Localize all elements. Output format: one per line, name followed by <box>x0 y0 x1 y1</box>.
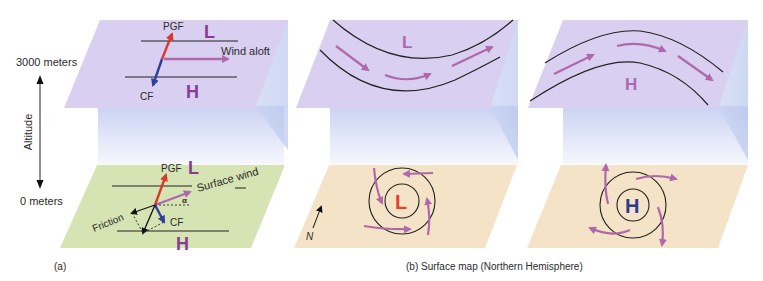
axis-title: Altitude <box>22 114 34 151</box>
panel-b-caption: (b) Surface map (Northern Hemisphere) <box>406 261 583 272</box>
low-label-aloft: L <box>204 22 215 42</box>
low-label-surface: L <box>188 158 199 178</box>
trough-low-label: L <box>402 33 412 52</box>
high-label-surface: H <box>176 234 189 254</box>
arrow-up-icon <box>37 75 44 84</box>
air-column <box>563 106 748 164</box>
wind-aloft-label: Wind aloft <box>221 45 270 57</box>
surface-high-label: H <box>625 195 639 217</box>
surface-low-label: L <box>395 191 407 213</box>
ridge-high-label: H <box>625 75 637 94</box>
axis-bottom-label: 0 meters <box>20 195 63 207</box>
high-label-aloft: H <box>186 82 199 102</box>
arrow-down-icon <box>37 180 44 189</box>
cf-label-surface: CF <box>170 217 183 228</box>
inflow-arrow <box>404 173 433 174</box>
panel-b-high: H H <box>527 20 748 248</box>
altitude-axis: 3000 meters 0 meters Altitude <box>16 56 78 207</box>
north-label: N <box>306 231 314 242</box>
pgf-label-aloft: PGF <box>163 21 184 32</box>
panel-a: PGF CF Wind aloft L H PGF CF α Surface w… <box>54 20 288 272</box>
axis-top-label: 3000 meters <box>16 56 78 68</box>
angle-alpha-label: α <box>182 196 187 205</box>
upper-plane <box>64 20 288 108</box>
diagram-canvas: PGF CF Wind aloft L H PGF CF α Surface w… <box>0 0 763 281</box>
panel-b-low: L L N <box>294 20 518 248</box>
panel-a-caption: (a) <box>54 261 66 272</box>
air-column <box>98 106 284 164</box>
cf-label-aloft: CF <box>140 91 153 102</box>
upper-plane <box>528 20 748 108</box>
air-column <box>330 106 518 164</box>
pgf-label-surface: PGF <box>161 163 182 174</box>
